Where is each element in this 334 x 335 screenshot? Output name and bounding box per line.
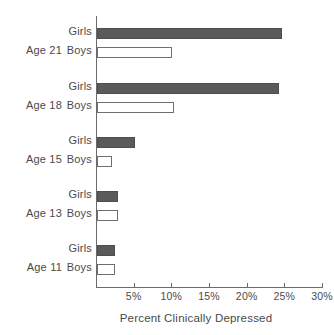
age-label: Age 11 xyxy=(0,261,62,273)
x-tick-label: 10% xyxy=(151,290,191,302)
x-tick-label: 20% xyxy=(227,290,267,302)
x-tick xyxy=(247,283,248,288)
x-tick xyxy=(171,283,172,288)
series-label-boys: Boys xyxy=(64,44,92,56)
bar-boys xyxy=(97,210,118,221)
bar-boys xyxy=(97,156,112,167)
bar-girls xyxy=(97,245,115,256)
x-tick-label: 15% xyxy=(189,290,229,302)
x-tick-label: 30% xyxy=(302,290,334,302)
series-label-boys: Boys xyxy=(64,207,92,219)
series-label-girls: Girls xyxy=(64,80,92,92)
x-tick-label: 25% xyxy=(264,290,304,302)
series-label-boys: Boys xyxy=(64,261,92,273)
series-label-boys: Boys xyxy=(64,153,92,165)
bar-chart: 5%10%15%20%25%30% Age 21GirlsBoysAge 18G… xyxy=(0,0,334,335)
x-tick xyxy=(209,283,210,288)
bar-girls xyxy=(97,191,118,202)
bar-girls xyxy=(97,83,279,94)
age-label: Age 13 xyxy=(0,207,62,219)
bar-girls xyxy=(97,137,135,148)
bar-boys xyxy=(97,264,115,275)
age-label: Age 18 xyxy=(0,99,62,111)
series-label-boys: Boys xyxy=(64,99,92,111)
x-tick xyxy=(322,283,323,288)
series-label-girls: Girls xyxy=(64,242,92,254)
x-axis-title: Percent Clinically Depressed xyxy=(0,312,334,324)
bar-boys xyxy=(97,102,174,113)
plot-area: 5%10%15%20%25%30% Age 21GirlsBoysAge 18G… xyxy=(0,0,334,290)
age-label: Age 15 xyxy=(0,153,62,165)
age-label: Age 21 xyxy=(0,44,62,56)
series-label-girls: Girls xyxy=(64,188,92,200)
series-label-girls: Girls xyxy=(64,134,92,146)
x-tick xyxy=(284,283,285,288)
bar-girls xyxy=(97,28,282,39)
x-tick-label: 5% xyxy=(114,290,154,302)
x-axis-title-text: Percent Clinically Depressed xyxy=(62,312,273,324)
series-label-girls: Girls xyxy=(64,25,92,37)
bar-boys xyxy=(97,47,172,58)
x-tick xyxy=(134,283,135,288)
